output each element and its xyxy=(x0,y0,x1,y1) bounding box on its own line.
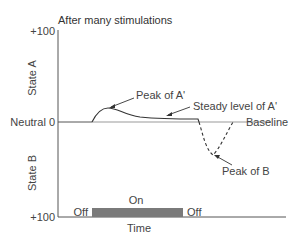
peak-b-arrowhead xyxy=(214,155,220,159)
steady-a-label: Steady level of A' xyxy=(193,100,277,112)
state-b-label: State B xyxy=(26,155,38,191)
baseline-label: Baseline xyxy=(246,116,288,128)
peak-a-arrowhead xyxy=(109,104,115,108)
stimulus-off-before-label: Off xyxy=(74,206,89,218)
x-axis-label: Time xyxy=(127,222,151,234)
stimulus-on-bar xyxy=(92,208,183,217)
curve-b xyxy=(199,122,233,155)
steady-a-arrowhead xyxy=(166,112,172,116)
peak-b-label: Peak of B xyxy=(222,165,270,177)
stimulus-off-after-label: Off xyxy=(187,206,202,218)
y-tick-neutral: Neutral 0 xyxy=(10,116,55,128)
peak-a-label: Peak of A' xyxy=(136,89,185,101)
curve-a-prime xyxy=(92,108,199,122)
diagram-title: After many stimulations xyxy=(58,14,173,26)
y-tick-bottom: +100 xyxy=(30,211,55,223)
state-a-label: State A xyxy=(26,60,38,96)
opponent-process-diagram: After many stimulations +100 Neutral 0 +… xyxy=(0,0,298,240)
y-tick-top: +100 xyxy=(30,25,55,37)
stimulus-on-label: On xyxy=(129,194,144,206)
